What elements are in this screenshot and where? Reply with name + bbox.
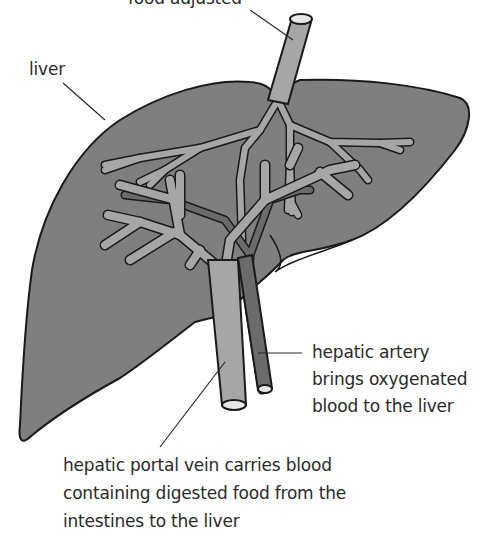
- label-line: liver: [29, 56, 65, 82]
- leader-line-liver: [63, 83, 105, 120]
- label-line: food adjusted: [128, 0, 242, 11]
- label-liver: liver: [29, 56, 65, 82]
- label-line: containing digested food from the: [63, 479, 346, 507]
- label-line: blood to the liver: [312, 393, 467, 420]
- label-top: food adjusted: [128, 0, 242, 11]
- label-portal-vein: hepatic portal vein carries blood contai…: [63, 451, 346, 535]
- label-line: hepatic portal vein carries blood: [63, 451, 346, 479]
- leader-line-portal-vein: [160, 362, 225, 447]
- label-line: intestines to the liver: [63, 507, 346, 535]
- leader-line-top: [250, 10, 293, 40]
- label-hepatic-artery: hepatic artery brings oxygenated blood t…: [312, 339, 467, 420]
- label-line: hepatic artery: [312, 339, 467, 366]
- label-line: brings oxygenated: [312, 366, 467, 393]
